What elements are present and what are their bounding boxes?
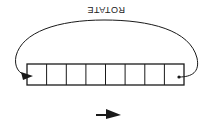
rotate-diagram: ROTATE <box>0 0 213 137</box>
arc-origin-dot <box>177 75 180 78</box>
direction-arrow-icon <box>96 109 121 119</box>
register <box>27 64 184 85</box>
rotate-arc <box>16 20 198 77</box>
rotate-label: ROTATE <box>87 5 125 15</box>
